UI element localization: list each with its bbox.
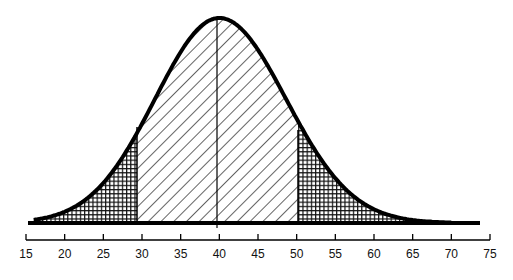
axis-tick-label: 50 [290, 247, 304, 261]
axis-tick-label: 75 [483, 247, 497, 261]
bell-curve-diagram: 15202530354045505560657075 [0, 0, 513, 280]
left-tail-region [20, 0, 137, 223]
curve-regions [20, 0, 498, 223]
axis-tick-label: 55 [329, 247, 343, 261]
axis-tick-label: 20 [58, 247, 72, 261]
axis-tick-label: 15 [19, 247, 33, 261]
axis-tick-label: 70 [445, 247, 459, 261]
right-tail-region [298, 0, 498, 223]
axis-tick-label: 60 [367, 247, 381, 261]
axis-tick-label: 65 [406, 247, 420, 261]
axis-tick-label: 25 [97, 247, 111, 261]
axis-tick-label: 35 [174, 247, 188, 261]
axis-tick-label: 45 [251, 247, 265, 261]
axis-tick-label: 30 [135, 247, 149, 261]
x-axis: 15202530354045505560657075 [19, 234, 497, 261]
axis-tick-label: 40 [213, 247, 227, 261]
